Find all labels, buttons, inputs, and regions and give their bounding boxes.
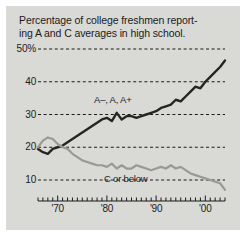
chart-plot-area xyxy=(6,6,240,230)
y-axis-label-50: 50% xyxy=(6,43,36,54)
x-axis-ticks-group xyxy=(38,196,225,202)
y-axis-label-20: 20 xyxy=(6,141,36,152)
x-axis-label-90: '90 xyxy=(143,203,169,214)
x-axis-label-70: '70 xyxy=(45,203,71,214)
chart-figure: Percentage of college freshmen report- i… xyxy=(6,6,240,230)
series-label-c-or-below: C or below xyxy=(104,173,147,184)
gridlines-group xyxy=(38,49,225,180)
series-label-a-averages: A–, A, A+ xyxy=(94,94,132,105)
y-axis-label-40: 40 xyxy=(6,76,36,87)
series-line-a-averages xyxy=(38,60,225,153)
x-axis-label-00: '00 xyxy=(192,203,218,214)
series-lines-group xyxy=(38,60,225,189)
y-axis-label-30: 30 xyxy=(6,109,36,120)
y-axis-label-10: 10 xyxy=(6,174,36,185)
x-axis-label-80: '80 xyxy=(94,203,120,214)
